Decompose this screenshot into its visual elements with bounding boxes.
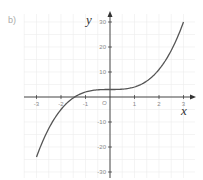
x-tick-label: 1 [133, 101, 137, 107]
y-tick-label: 10 [99, 69, 106, 75]
origin-label: O [102, 100, 107, 106]
y-axis-arrow-icon [108, 11, 113, 17]
x-tick-label: 2 [157, 101, 161, 107]
x-axis-arrow-icon [190, 95, 196, 100]
y-tick-label: 30 [99, 19, 106, 25]
part-label: b) [8, 15, 16, 25]
x-axis-label: x [180, 103, 187, 118]
y-tick-label: -20 [97, 144, 106, 150]
y-tick-label: 20 [99, 44, 106, 50]
axes [24, 11, 196, 178]
x-tick-label: -3 [34, 101, 40, 107]
y-tick-label: -30 [97, 169, 106, 175]
y-axis-label: y [84, 12, 92, 27]
y-tick-label: -10 [97, 119, 106, 125]
grid [24, 14, 195, 178]
x-tick-label: -1 [83, 101, 89, 107]
cubic-graph: -3-2-1123302010-10-20-30 b) y x O [0, 0, 203, 180]
